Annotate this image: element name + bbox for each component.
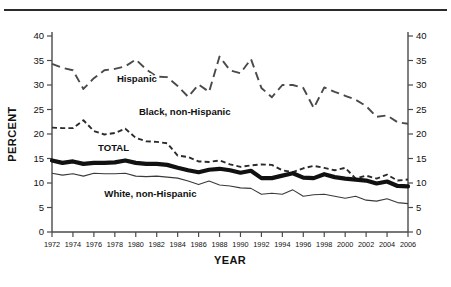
x-tick-label: 1980 [128,240,144,249]
y-tick-label-left: 10 [33,177,44,188]
y-axis-title: PERCENT [6,106,18,161]
y-tick-label-right: 25 [416,104,427,115]
x-tick-label: 1990 [232,240,248,249]
x-tick-label: 2000 [337,240,353,249]
y-tick-label-left: 40 [33,30,44,41]
x-tick-label: 1996 [295,240,311,249]
y-tick-label-right: 30 [416,79,427,90]
x-tick-label: 1988 [211,240,227,249]
y-tick-label-left: 15 [33,153,44,164]
x-tick-label: 1992 [253,240,269,249]
series-label-black-non-hispanic: Black, non-Hispanic [139,106,231,117]
page-separator-rule [4,9,447,11]
y-tick-label-right: 40 [416,30,427,41]
line-chart: 0055101015152020252530303535404019721974… [0,16,451,266]
x-tick-label: 1982 [149,240,165,249]
y-tick-label-right: 15 [416,153,427,164]
y-tick-label-left: 0 [39,226,44,237]
x-tick-label: 1974 [65,240,81,249]
y-tick-label-left: 35 [33,55,44,66]
x-tick-label: 1986 [190,240,206,249]
x-tick-label: 2004 [379,240,395,249]
y-tick-label-right: 0 [416,226,421,237]
series-label-white-non-hispanic: White, non-Hispanic [104,188,197,199]
y-tick-label-right: 35 [416,55,427,66]
y-tick-label-right: 20 [416,128,427,139]
y-tick-label-right: 10 [416,177,427,188]
series-label-total: TOTAL [98,142,129,153]
x-tick-label: 1984 [170,240,186,249]
x-tick-label: 1998 [316,240,332,249]
y-tick-label-left: 20 [33,128,44,139]
y-tick-label-right: 5 [416,202,421,213]
y-tick-label-left: 25 [33,104,44,115]
x-tick-label: 1994 [274,240,290,249]
figure-root: 0055101015152020252530303535404019721974… [0,0,451,287]
series-label-hispanic: Hispanic [117,73,158,84]
x-tick-label: 1976 [86,240,102,249]
chart-area: 0055101015152020252530303535404019721974… [0,16,451,266]
y-tick-label-left: 30 [33,79,44,90]
x-tick-label: 1972 [44,240,60,249]
x-tick-label: 1978 [107,240,123,249]
x-tick-label: 2006 [400,240,416,249]
x-axis-title: YEAR [214,254,246,266]
x-tick-label: 2002 [358,240,374,249]
y-tick-label-left: 5 [39,202,44,213]
